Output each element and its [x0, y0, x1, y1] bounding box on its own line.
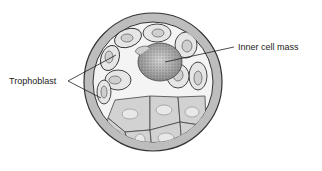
- inner-cell-mass-label: Inner cell mass: [238, 42, 299, 52]
- trophoblast-label: Trophoblast: [9, 76, 56, 86]
